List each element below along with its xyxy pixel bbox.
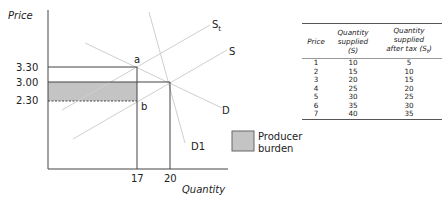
x-tick-20: 20 bbox=[164, 173, 177, 184]
legend-label-line1: Producer bbox=[258, 131, 303, 142]
table-row: 42520 bbox=[302, 85, 442, 94]
y-tick-2-30: 2.30 bbox=[16, 95, 38, 106]
y-axis-label: Price bbox=[8, 10, 33, 21]
table-row: 74035 bbox=[302, 110, 442, 119]
table-row: 32015 bbox=[302, 76, 442, 85]
table-row: 53025 bbox=[302, 93, 442, 102]
header-quantity-supplied-after-tax: Quantity supplied after tax (St) bbox=[376, 24, 442, 59]
point-a-label: a bbox=[134, 54, 140, 65]
curve-s-label: S bbox=[229, 46, 235, 57]
header-quantity-supplied: Quantity supplied (S) bbox=[330, 24, 376, 59]
curve-d-label: D bbox=[222, 105, 230, 116]
curve-d1-label: D1 bbox=[191, 141, 205, 152]
table-row: 21510 bbox=[302, 68, 442, 77]
legend-label-line2: burden bbox=[258, 143, 293, 154]
table-row: 63530 bbox=[302, 102, 442, 111]
supply-schedule-table: Price Quantity supplied (S) Quantity sup… bbox=[302, 23, 442, 120]
y-tick-3-30: 3.30 bbox=[16, 62, 38, 73]
legend-swatch-producer-burden bbox=[232, 131, 254, 151]
producer-burden-area bbox=[48, 82, 137, 101]
header-price: Price bbox=[302, 24, 330, 59]
y-tick-3-00: 3.00 bbox=[16, 77, 38, 88]
x-axis-label: Quantity bbox=[182, 184, 226, 195]
x-tick-17: 17 bbox=[131, 173, 144, 184]
point-b-label: b bbox=[141, 101, 147, 112]
curve-st-label: St bbox=[212, 19, 221, 33]
table-row: 1105 bbox=[302, 59, 442, 68]
table-header-row: Price Quantity supplied (S) Quantity sup… bbox=[302, 24, 442, 59]
